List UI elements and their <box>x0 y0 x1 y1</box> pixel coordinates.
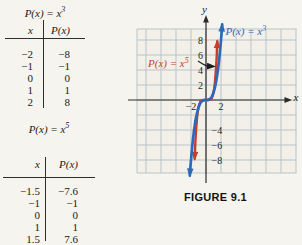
y-tick-label: 6 <box>198 50 203 61</box>
y-axis-label: y <box>201 3 207 15</box>
y-tick-label: −8 <box>212 155 223 166</box>
y-tick-label: −6 <box>212 140 223 151</box>
x-axis-label: x <box>293 91 299 103</box>
x-tick-label: −2 <box>186 101 197 112</box>
y-axis-arrow <box>203 15 209 23</box>
y-tick-label: 8 <box>198 35 203 46</box>
x-tick-label: 2 <box>219 101 224 112</box>
y-tick-label: 2 <box>198 80 203 91</box>
figure-caption: FIGURE 9.1 <box>184 191 247 203</box>
y-tick-label: 4 <box>198 65 203 76</box>
curve-label-x3: P(x) = x3 <box>225 24 267 38</box>
curve-label-x5: P(x) = x5 <box>147 56 189 70</box>
y-tick-label: −4 <box>212 125 223 136</box>
